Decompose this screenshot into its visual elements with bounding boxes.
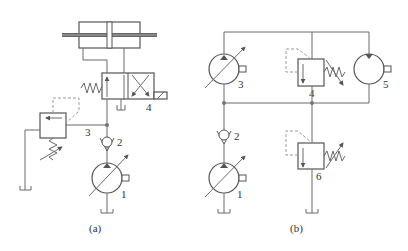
label-3: 3 [238, 78, 244, 90]
label-1: 1 [237, 188, 243, 200]
shaft-icon [239, 66, 246, 72]
check-valve-2: 2 [217, 130, 240, 144]
label-3: 3 [85, 126, 91, 138]
label-2: 2 [117, 136, 123, 148]
shaft-icon [384, 66, 391, 72]
spring-icon [81, 83, 102, 93]
caption-b: (b) [290, 222, 303, 235]
hydraulic-cylinder [62, 22, 157, 48]
subfigure-a: 4 3 2 [20, 22, 167, 235]
label-4: 4 [146, 101, 152, 113]
shaft-icon [239, 175, 246, 181]
directional-valve-4: 4 [81, 73, 167, 113]
label-1: 1 [121, 188, 127, 200]
junction-dot [222, 101, 226, 105]
drain-line [25, 130, 40, 190]
cylinder-port-line-left [83, 48, 107, 60]
relief-valve-3 [40, 98, 79, 160]
hydraulic-schematic: 4 3 2 [0, 0, 408, 251]
label-6: 6 [316, 170, 322, 182]
relief-valve-6: 6 [286, 131, 345, 182]
subfigure-b: 3 4 5 6 [205, 32, 391, 235]
hydraulic-motor-5: 5 [354, 54, 391, 90]
relief-valve-4: 4 [286, 49, 345, 99]
label-2: 2 [234, 130, 240, 142]
variable-pump-3: 3 [205, 47, 246, 90]
label-5: 5 [383, 78, 389, 90]
variable-pump-1: 1 [89, 155, 129, 200]
spring-icon [49, 138, 57, 160]
check-valve-2: 2 [100, 136, 123, 151]
variable-pump-1: 1 [205, 156, 246, 200]
caption-a: (a) [89, 222, 102, 235]
junction-dot [310, 101, 314, 105]
shaft-icon [122, 175, 129, 181]
